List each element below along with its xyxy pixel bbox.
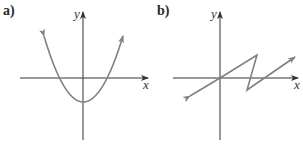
panel-b-x-label: x	[293, 77, 300, 92]
panel-b-y-label: y	[209, 6, 217, 21]
panel-a-graph: x y	[20, 6, 149, 140]
panel-a-x-label: x	[142, 77, 149, 92]
panel-a-y-label: y	[72, 6, 80, 21]
panel-b-zigzag-curve	[190, 55, 295, 96]
panel-b-graph: x y	[173, 6, 300, 140]
graphs-figure: x y x y	[0, 0, 303, 145]
